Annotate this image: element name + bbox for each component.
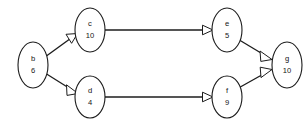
node-g[interactable]: g 10 bbox=[272, 42, 302, 88]
node-b-value: 6 bbox=[31, 66, 35, 75]
node-b-ellipse[interactable] bbox=[18, 42, 48, 88]
node-d[interactable]: d 4 bbox=[75, 76, 105, 118]
node-d-label: d bbox=[88, 86, 92, 95]
node-b-label: b bbox=[31, 54, 35, 63]
edge-f-to-g-arrowhead bbox=[260, 67, 272, 77]
graph-diagram-canvas: b 6 c 10 d 4 e 5 f 9 g bbox=[0, 0, 308, 126]
edge-e-to-g bbox=[239, 40, 273, 62]
node-e-label: e bbox=[225, 19, 229, 28]
node-f[interactable]: f 9 bbox=[212, 76, 242, 118]
node-c-ellipse[interactable] bbox=[75, 8, 105, 52]
node-e-value: 5 bbox=[225, 31, 229, 40]
edge-b-to-d bbox=[45, 73, 78, 95]
edge-b-to-c bbox=[45, 34, 78, 58]
node-b[interactable]: b 6 bbox=[18, 42, 48, 88]
edge-d-to-f-arrowhead bbox=[203, 92, 214, 102]
node-c-label: c bbox=[88, 19, 92, 28]
node-f-value: 9 bbox=[225, 98, 229, 107]
node-c[interactable]: c 10 bbox=[75, 8, 105, 52]
node-c-value: 10 bbox=[86, 31, 94, 40]
edge-f-to-g bbox=[239, 67, 273, 88]
edge-c-to-e bbox=[105, 25, 213, 35]
edge-e-to-g-arrowhead bbox=[260, 51, 272, 61]
node-g-label: g bbox=[285, 54, 289, 63]
directed-graph: b 6 c 10 d 4 e 5 f 9 g bbox=[0, 0, 308, 126]
edge-d-to-f bbox=[105, 92, 213, 102]
edge-f-to-g-line bbox=[239, 74, 264, 88]
node-g-value: 10 bbox=[283, 66, 291, 75]
node-f-ellipse[interactable] bbox=[212, 76, 242, 118]
node-d-ellipse[interactable] bbox=[75, 76, 105, 118]
node-d-value: 4 bbox=[88, 98, 92, 107]
node-e[interactable]: e 5 bbox=[212, 8, 242, 52]
edge-b-to-c-line bbox=[45, 39, 71, 58]
node-e-ellipse[interactable] bbox=[212, 8, 242, 52]
node-g-ellipse[interactable] bbox=[272, 42, 302, 88]
edge-c-to-e-arrowhead bbox=[203, 25, 214, 35]
